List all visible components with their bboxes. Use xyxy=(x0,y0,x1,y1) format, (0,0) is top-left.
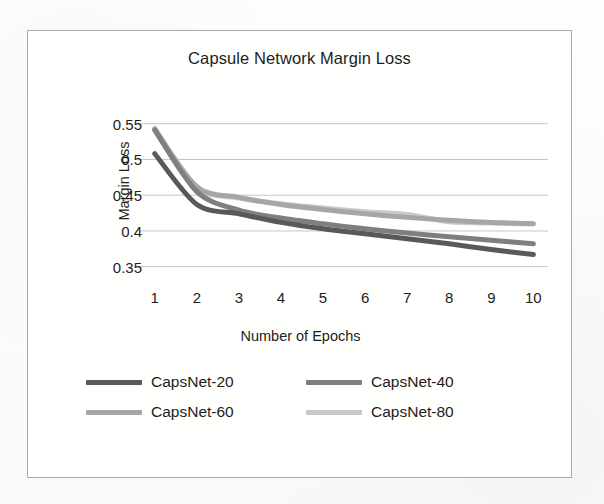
x-axis-tick-label: 2 xyxy=(182,289,212,306)
x-axis-tick-label: 1 xyxy=(140,289,170,306)
x-axis-tick-label: 6 xyxy=(350,289,380,306)
series-lines xyxy=(155,129,534,255)
x-axis-tick-label: 5 xyxy=(308,289,338,306)
x-axis-tick-label: 7 xyxy=(392,289,422,306)
y-axis-tick-label: 0.35 xyxy=(86,258,142,275)
y-axis-tick-label: 0.45 xyxy=(86,187,142,204)
x-axis-tick-label: 3 xyxy=(224,289,254,306)
y-axis-tick-label: 0.55 xyxy=(86,115,142,132)
legend-label: CapsNet-80 xyxy=(371,403,454,421)
x-axis-tick-label: 9 xyxy=(476,289,506,306)
legend-label: CapsNet-40 xyxy=(371,373,454,391)
legend-swatch xyxy=(86,410,142,415)
y-axis-tick-label: 0.5 xyxy=(86,151,142,168)
legend-item: CapsNet-60 xyxy=(86,403,296,421)
legend-label: CapsNet-60 xyxy=(151,403,234,421)
x-axis-ticks: 12345678910 xyxy=(28,289,573,313)
x-axis-title: Number of Epochs xyxy=(28,328,573,344)
plot-area: 0.550.50.450.40.35 12345678910 Margin Lo… xyxy=(28,31,573,479)
y-axis-tick-label: 0.4 xyxy=(86,222,142,239)
legend-item: CapsNet-40 xyxy=(306,373,516,391)
legend-swatch xyxy=(306,410,362,415)
figure-page: Capsule Network Margin Loss 0.550.50.450… xyxy=(0,0,604,504)
figure-frame: Capsule Network Margin Loss 0.550.50.450… xyxy=(27,30,572,478)
legend-swatch xyxy=(306,380,362,385)
y-axis-title: Margin Loss xyxy=(116,121,132,241)
series-line xyxy=(155,130,534,244)
x-axis-tick-label: 8 xyxy=(434,289,464,306)
x-axis-tick-label: 10 xyxy=(518,289,548,306)
legend-item: CapsNet-20 xyxy=(86,373,296,391)
x-axis-tick-label: 4 xyxy=(266,289,296,306)
legend-swatch xyxy=(86,380,142,385)
legend-item: CapsNet-80 xyxy=(306,403,516,421)
legend-label: CapsNet-20 xyxy=(151,373,234,391)
chart-legend: CapsNet-20CapsNet-40CapsNet-60CapsNet-80 xyxy=(86,373,516,421)
